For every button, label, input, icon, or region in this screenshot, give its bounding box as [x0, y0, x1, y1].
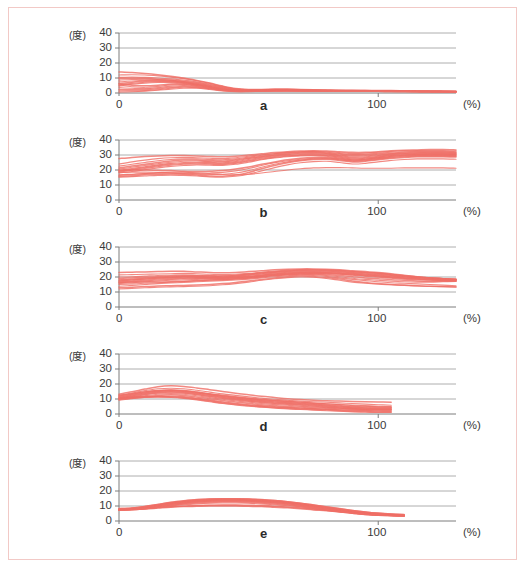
y-axis-unit-label: (度)	[69, 27, 86, 42]
y-tick-label-20: 20	[86, 485, 112, 496]
panel-letter-d: d	[9, 419, 518, 434]
y-tick-label-10: 10	[86, 72, 112, 83]
series-group	[119, 498, 404, 515]
y-tick-label-20: 20	[86, 57, 112, 68]
chart-panel-b: (度)4030201000100(%)b	[9, 122, 518, 227]
y-tick-label-10: 10	[86, 179, 112, 190]
y-axis-unit-label: (度)	[69, 348, 86, 363]
panel-letter-c: c	[9, 312, 518, 327]
series-group	[119, 72, 456, 92]
y-tick-label-30: 30	[86, 42, 112, 53]
panel-letter-a: a	[9, 98, 518, 113]
y-tick-label-10: 10	[86, 393, 112, 404]
y-tick-label-30: 30	[86, 363, 112, 374]
panel-letter-b: b	[9, 205, 518, 220]
y-axis-unit-label: (度)	[69, 455, 86, 470]
y-tick-label-20: 20	[86, 271, 112, 282]
series-group	[119, 269, 456, 289]
y-tick-label-0: 0	[86, 515, 112, 526]
y-tick-label-30: 30	[86, 256, 112, 267]
chart-panel-d: (度)4030201000100(%)d	[9, 336, 518, 441]
y-tick-label-40: 40	[86, 134, 112, 145]
series-group	[119, 150, 456, 178]
chart-panel-e: (度)4030201000100(%)e	[9, 443, 518, 548]
y-axis-unit-label: (度)	[69, 241, 86, 256]
y-tick-label-30: 30	[86, 470, 112, 481]
chart-panel-a: (度)4030201000100(%)a	[9, 15, 518, 120]
y-tick-label-20: 20	[86, 164, 112, 175]
y-tick-label-10: 10	[86, 500, 112, 511]
y-tick-label-40: 40	[86, 241, 112, 252]
y-tick-label-40: 40	[86, 27, 112, 38]
y-tick-label-0: 0	[86, 301, 112, 312]
figure-frame: (度)4030201000100(%)a (度)4030201000100(%)…	[8, 7, 517, 560]
y-tick-label-20: 20	[86, 378, 112, 389]
y-tick-label-30: 30	[86, 149, 112, 160]
panel-letter-e: e	[9, 526, 518, 541]
y-axis-unit-label: (度)	[69, 134, 86, 149]
chart-panel-c: (度)4030201000100(%)c	[9, 229, 518, 334]
y-tick-label-40: 40	[86, 455, 112, 466]
y-tick-label-40: 40	[86, 348, 112, 359]
y-tick-label-0: 0	[86, 87, 112, 98]
y-tick-label-10: 10	[86, 286, 112, 297]
y-tick-label-0: 0	[86, 408, 112, 419]
y-tick-label-0: 0	[86, 194, 112, 205]
